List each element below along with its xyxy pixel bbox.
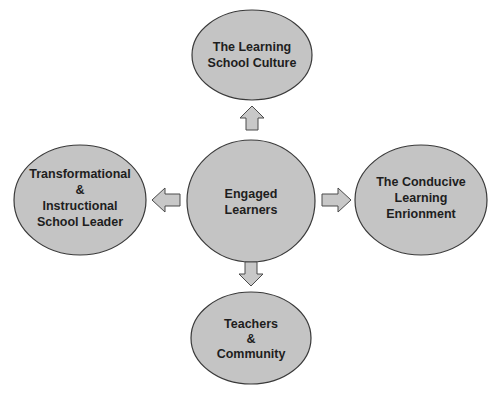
node-label-line: Transformational bbox=[29, 167, 130, 181]
node-label-line: Learners bbox=[225, 203, 278, 217]
node-label-line: The Learning bbox=[213, 40, 291, 54]
node-label-line: The Conducive bbox=[376, 175, 466, 189]
node-shape bbox=[187, 140, 315, 262]
node-label-line: School Leader bbox=[37, 215, 123, 229]
arrow-left-icon bbox=[152, 188, 180, 212]
node-label-line: Community bbox=[217, 347, 286, 361]
node-label-line: & bbox=[246, 332, 255, 346]
node-label-line: School Culture bbox=[208, 56, 297, 70]
arrow-right-icon bbox=[322, 188, 351, 212]
node-engaged-learners: Engaged Learners bbox=[187, 140, 315, 262]
arrow-up-icon bbox=[240, 106, 264, 130]
node-label-line: Instructional bbox=[42, 199, 117, 213]
node-teachers-community: Teachers & Community bbox=[191, 292, 311, 384]
diagram-canvas: The Learning School Culture Engaged Lear… bbox=[0, 0, 498, 393]
node-conducive-environment: The Conducive Learning Enrionment bbox=[355, 145, 487, 255]
arrow-down-icon bbox=[239, 262, 263, 286]
node-school-leader: Transformational & Instructional School … bbox=[14, 145, 146, 255]
node-label-line: & bbox=[75, 183, 84, 197]
node-label-line: Learning bbox=[395, 191, 448, 205]
node-label-line: Teachers bbox=[224, 317, 278, 331]
node-label-line: Engaged bbox=[225, 187, 278, 201]
node-shape bbox=[192, 10, 312, 100]
node-label-line: Enrionment bbox=[386, 207, 456, 221]
node-learning-school-culture: The Learning School Culture bbox=[192, 10, 312, 100]
